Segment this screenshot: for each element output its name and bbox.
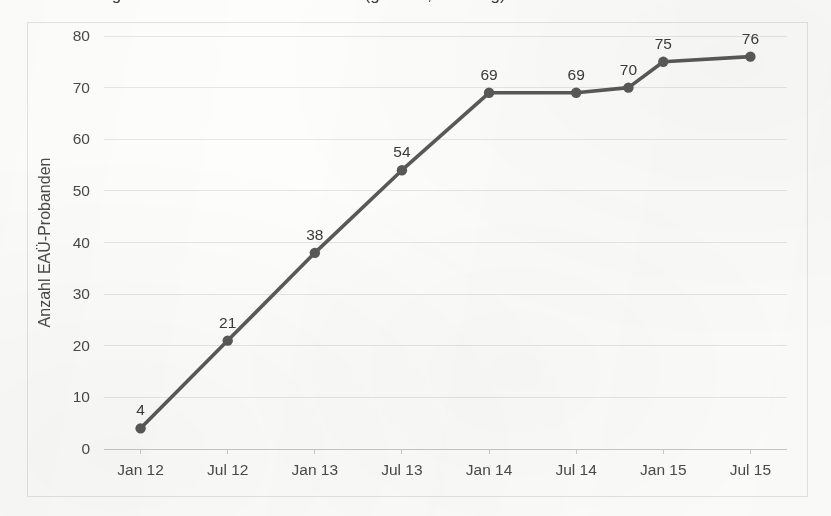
data-point-label: 76 xyxy=(742,30,759,47)
y-axis-tick-label: 20 xyxy=(73,337,91,354)
x-axis-tick-labels: Jan 12Jul 12Jan 13Jul 13Jan 14Jul 14Jan … xyxy=(117,461,771,478)
y-axis-tick-label: 40 xyxy=(73,234,91,251)
data-point-label: 75 xyxy=(655,35,672,52)
data-point-marker xyxy=(310,248,320,258)
y-axis-tick-labels: 01020304050607080 xyxy=(73,27,91,457)
y-axis-tick-label: 0 xyxy=(81,440,90,457)
data-point-label: 69 xyxy=(480,66,497,83)
x-axis-tick-label: Jan 12 xyxy=(117,461,164,478)
x-axis-tick-label: Jul 12 xyxy=(207,461,248,478)
data-point-label: 4 xyxy=(136,401,145,418)
y-axis-tick-label: 50 xyxy=(73,182,91,199)
scanned-page: Abbildung 1: Anzahl der EAÜ-Probanden (g… xyxy=(0,0,831,516)
data-point-marker xyxy=(571,88,581,98)
data-point-label: 54 xyxy=(393,143,411,160)
y-axis-tick-label: 60 xyxy=(73,130,91,147)
x-axis-tick-label: Jul 15 xyxy=(730,461,771,478)
axis-tickmarks xyxy=(141,449,751,454)
x-axis-tick-label: Jul 14 xyxy=(555,461,597,478)
data-point-label: 21 xyxy=(219,314,236,331)
y-axis-title: Anzahl EAÜ-Probanden xyxy=(36,158,53,328)
data-point-marker xyxy=(397,165,407,175)
y-axis-tick-label: 70 xyxy=(73,79,91,96)
data-point-marker xyxy=(623,82,633,92)
figure-caption-text: Abbildung 1: Anzahl der EAÜ-Probanden (g… xyxy=(44,0,506,5)
data-point-label: 69 xyxy=(568,66,585,83)
x-axis-tick-label: Jul 13 xyxy=(381,461,422,478)
data-point-label: 38 xyxy=(306,226,323,243)
y-axis-tick-label: 30 xyxy=(73,285,91,302)
chart-frame: 01020304050607080 Jan 12Jul 12Jan 13Jul … xyxy=(27,22,808,497)
x-axis-tick-label: Jan 13 xyxy=(292,461,339,478)
data-point-marker xyxy=(658,57,668,67)
figure-caption-clipped: Abbildung 1: Anzahl der EAÜ-Probanden (g… xyxy=(0,0,831,11)
x-axis-tick-label: Jan 15 xyxy=(640,461,687,478)
data-point-marker xyxy=(223,335,233,345)
data-point-label: 70 xyxy=(620,61,638,78)
gridlines xyxy=(104,36,787,449)
data-point-marker xyxy=(135,423,145,433)
line-chart: 01020304050607080 Jan 12Jul 12Jan 13Jul … xyxy=(28,23,807,496)
x-axis-tick-label: Jan 14 xyxy=(466,461,513,478)
data-point-marker xyxy=(745,51,755,61)
y-axis-tick-label: 80 xyxy=(73,27,91,44)
y-axis-tick-label: 10 xyxy=(73,388,91,405)
data-point-marker xyxy=(484,88,494,98)
